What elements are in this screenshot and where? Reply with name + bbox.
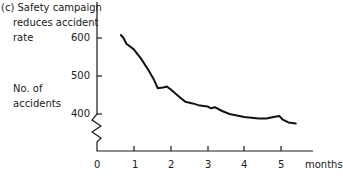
axes [92,2,313,151]
accidents-line [121,35,296,124]
y-axis-with-break [92,2,313,151]
